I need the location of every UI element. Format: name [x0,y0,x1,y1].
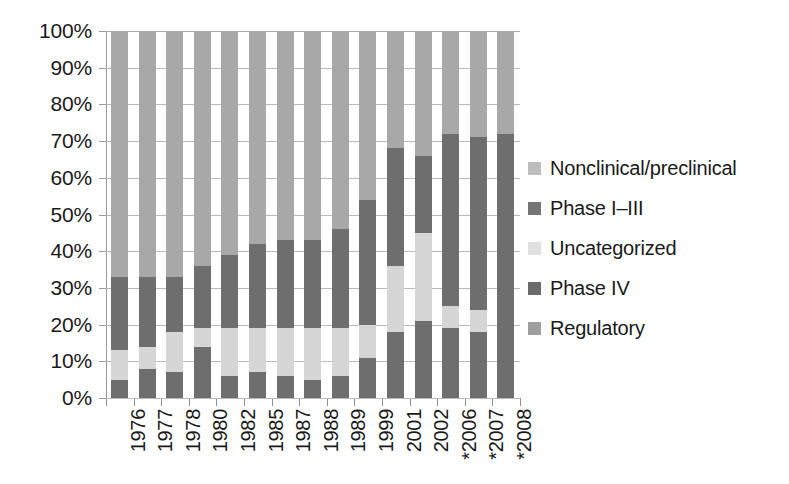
x-axis-tick-label: 1980 [210,409,230,452]
y-axis-tick-label: 90% [51,57,92,78]
y-axis-tick-label: 60% [51,167,92,188]
y-axis-tick-mark [99,178,106,179]
bar-segment [497,31,514,134]
x-axis-tick-mark [437,399,438,406]
x-axis-tick-mark [382,399,383,406]
legend-label: Phase I–III [550,197,643,219]
bar-segment [304,31,321,240]
bar-segment [166,277,183,332]
legend-label: Regulatory [550,317,645,339]
bar-1988 [304,31,321,398]
x-axis-tick-mark [354,399,355,406]
bar-segment [277,376,294,398]
x-axis-tick-mark [106,399,107,406]
legend-swatch-icon [528,202,541,215]
bar-segment [442,31,459,134]
x-axis-tick-label: 1978 [183,409,203,452]
bar-1977 [139,31,156,398]
x-axis-tick-mark [134,399,135,406]
y-axis-tick-label: 70% [51,130,92,151]
bar-1982 [221,31,238,398]
bar-segment [194,31,211,266]
x-axis-tick-mark [327,399,328,406]
legend-swatch-icon [528,322,541,335]
x-axis-tick-label: 1982 [238,409,258,452]
x-axis-tick-mark [492,399,493,406]
y-axis-tick-label: 30% [51,277,92,298]
bar-segment [166,31,183,277]
bar-segment [470,31,487,137]
bar-2002 [415,31,432,398]
x-axis-tick-label: *2007 [486,409,506,460]
bar-segment [111,277,128,350]
x-axis-tick-label: 2002 [431,409,451,452]
bar-segment [359,358,376,398]
bar-segment [249,31,266,244]
y-axis-tick-label: 100% [39,20,92,41]
bar-segment [139,369,156,398]
bar-segment [277,31,294,240]
x-axis-tick-label: 1999 [376,409,396,452]
x-axis-tick-label: 1977 [155,409,175,452]
legend-label: Phase IV [550,277,630,299]
bar-1999 [359,31,376,398]
x-axis-tick-mark [189,399,190,406]
y-axis-tick-label: 40% [51,240,92,261]
bar-1987 [277,31,294,398]
legend-label: Nonclinical/preclinical [550,157,737,179]
bar-segment [332,376,349,398]
bar-segment [277,240,294,328]
y-axis-tick-label: 10% [51,350,92,371]
bar-segment [387,148,404,265]
legend-item[interactable]: Regulatory [528,308,786,348]
bar-segment [221,376,238,398]
legend-swatch-icon [528,282,541,295]
y-axis-tick-mark [99,398,106,399]
bar-segment [111,31,128,277]
bar-segment [194,266,211,328]
bar-segment [221,328,238,376]
bar-segment [470,310,487,332]
y-axis-tick-label: 20% [51,314,92,335]
legend-swatch-icon [528,242,541,255]
bar-segment [415,321,432,398]
bar-segment [442,328,459,398]
chart-legend: Nonclinical/preclinicalPhase I–IIIUncate… [528,148,786,348]
x-axis-tick-mark [299,399,300,406]
bar-segment [139,347,156,369]
legend-item[interactable]: Uncategorized [528,228,786,268]
bar-segment [442,306,459,328]
bar-segment [415,156,432,233]
x-axis-tick-label: 1989 [348,409,368,452]
x-axis-tick-mark [161,399,162,406]
x-axis: 1976197719781980198219851987198819891999… [106,399,526,484]
bar-segment [332,229,349,328]
x-axis-tick-label: 1987 [293,409,313,452]
y-axis-tick-mark [99,251,106,252]
bar-segment [221,31,238,255]
bar-star2008 [497,31,514,398]
bar-segment [470,332,487,398]
bar-segment [359,325,376,358]
bar-1976 [111,31,128,398]
legend-item[interactable]: Phase IV [528,268,786,308]
x-axis-tick-mark [244,399,245,406]
x-axis-tick-label: 2001 [404,409,424,452]
x-axis-tick-label: *2006 [459,409,479,460]
legend-item[interactable]: Phase I–III [528,188,786,228]
bar-segment [359,200,376,325]
bar-segment [304,328,321,379]
bar-2001 [387,31,404,398]
bar-1989 [332,31,349,398]
bar-1980 [194,31,211,398]
y-axis-tick-mark [99,325,106,326]
bar-star2007 [470,31,487,398]
bar-1985 [249,31,266,398]
bar-segment [221,255,238,328]
bar-segment [194,347,211,398]
x-axis-tick-mark [520,399,521,406]
legend-item[interactable]: Nonclinical/preclinical [528,148,786,188]
bar-segment [415,233,432,321]
y-axis-tick-mark [99,104,106,105]
bar-1978 [166,31,183,398]
